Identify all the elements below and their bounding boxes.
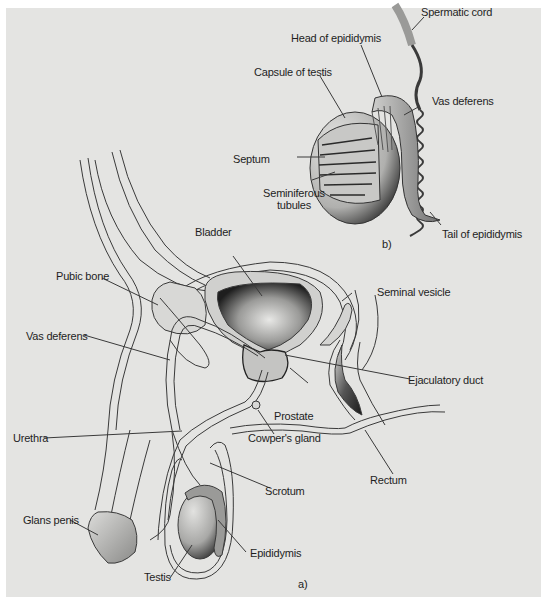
label-scrotum: Scrotum	[265, 485, 305, 497]
label-urethra: Urethra	[13, 432, 48, 444]
panel-b-marker: b)	[382, 238, 392, 250]
label-cowpers-gland: Cowper's gland	[248, 432, 321, 444]
anatomy-illustration	[0, 0, 547, 608]
label-ejaculatory-duct: Ejaculatory duct	[408, 374, 483, 386]
label-seminiferous-tubules: Seminiferous tubules	[262, 187, 326, 211]
label-testis: Testis	[144, 571, 171, 583]
label-tail-of-epididymis: Tail of epididymis	[442, 228, 522, 240]
label-spermatic-cord: Spermatic cord	[421, 6, 492, 18]
label-seminiferous-line2: tubules	[262, 199, 326, 211]
label-vas-deferens-b: Vas deferens	[432, 95, 494, 107]
label-seminiferous-line1: Seminiferous	[262, 187, 326, 199]
label-prostate: Prostate	[274, 410, 313, 422]
label-epididymis-a: Epididymis	[250, 547, 301, 559]
label-vas-deferens-a: Vas deferens	[26, 330, 88, 342]
panel-a-marker: a)	[298, 578, 308, 590]
label-capsule-of-testis: Capsule of testis	[254, 66, 332, 78]
label-pubic-bone: Pubic bone	[56, 270, 109, 282]
label-glans-penis: Glans penis	[23, 514, 79, 526]
label-seminal-vesicle: Seminal vesicle	[377, 286, 450, 298]
label-rectum: Rectum	[370, 474, 407, 486]
label-septum: Septum	[233, 153, 270, 165]
label-bladder: Bladder	[195, 226, 232, 238]
label-head-of-epididymis: Head of epididymis	[291, 32, 381, 44]
